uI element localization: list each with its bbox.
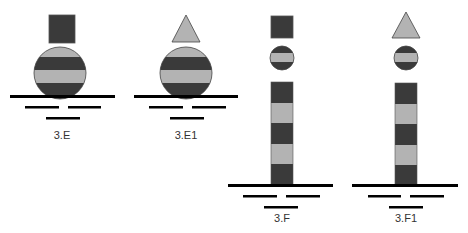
ground-dash (170, 117, 204, 120)
ground-dash (25, 106, 59, 109)
figure-label: 3.F (274, 212, 290, 224)
figure-3e: 3.E (10, 15, 115, 141)
ground-dash (389, 206, 423, 209)
ground-dash (192, 106, 226, 109)
buoy-diagram: 3.E 3.E1 (0, 0, 468, 233)
ground-dash (46, 117, 80, 120)
triangle-topmark-icon (172, 15, 200, 42)
banded-pillar-icon (395, 83, 417, 185)
banded-sphere-icon (268, 45, 296, 72)
waterline (228, 184, 333, 187)
triangle-topmark-icon (392, 12, 420, 38)
waterline (10, 95, 115, 98)
banded-sphere-icon (392, 45, 420, 72)
figure-3f: 3.F (228, 16, 333, 224)
banded-pillar-icon (271, 82, 293, 185)
ground-dash (149, 106, 183, 109)
ground-dash (68, 106, 101, 109)
figure-label: 3.E1 (175, 129, 198, 141)
ground-dash (368, 195, 401, 198)
figure-3e1: 3.E1 (134, 15, 238, 141)
square-topmark-icon (271, 16, 293, 38)
banded-sphere-buoy-icon (30, 44, 90, 99)
figure-label: 3.E (54, 129, 71, 141)
ground-dash (286, 195, 320, 198)
figure-3f1: 3.F1 (352, 12, 458, 224)
ground-dash (264, 206, 298, 209)
waterline (352, 184, 458, 187)
waterline (134, 95, 238, 98)
figure-label: 3.F1 (395, 212, 417, 224)
banded-sphere-buoy-icon (156, 44, 216, 99)
square-topmark-icon (49, 15, 75, 43)
ground-dash (243, 195, 277, 198)
ground-dash (410, 195, 444, 198)
